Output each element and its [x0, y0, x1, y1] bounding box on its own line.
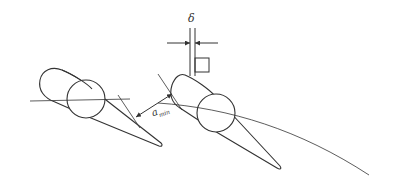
- thickness-dimension: [167, 28, 218, 76]
- left-blade-circle: [67, 80, 105, 118]
- square-marker: [195, 58, 209, 72]
- right-blade-circle: [197, 94, 235, 132]
- left-blade: [30, 68, 162, 146]
- delta-label: δ: [188, 12, 195, 25]
- right-blade: [158, 74, 281, 169]
- blade-cascade-diagram: [0, 0, 394, 193]
